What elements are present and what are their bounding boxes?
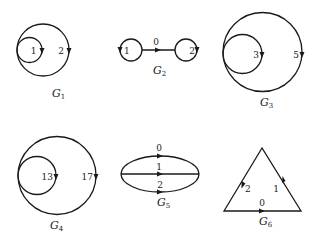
g2-right-arrow-icon [195,47,200,53]
g4-title: G4 [50,219,64,233]
g3-inner-arrow-icon [260,52,265,58]
g6-edge-label-left: 2 [245,184,251,194]
g1-outer-arrow-icon [67,48,72,54]
g4-edge-label-outer: 17 [82,172,94,182]
g6-edge-label-base: 0 [259,198,265,208]
g5-edge-label-bottom: 2 [157,180,163,190]
graph-g1: 1 2 G1 [17,24,72,101]
g5-edge-label-top: 0 [156,143,162,153]
g4-outer-arrow-icon [94,174,99,180]
g6-edge-label-right: 1 [273,184,279,194]
g5-top-arrow-icon [157,154,163,159]
g3-outer-arrow-icon [300,52,305,58]
graph-g5: 0 1 2 G5 [121,143,199,210]
g2-title: G2 [153,64,166,78]
g2-left-arrow-icon [118,47,123,53]
g3-edge-label-outer: 5 [293,50,299,60]
g2-edge-label-connector: 0 [153,37,159,47]
g1-edge-label-inner: 1 [31,46,37,56]
graph-g6: 2 1 0 G6 [224,148,301,229]
g5-edge-label-middle: 1 [156,162,162,172]
g5-middle-arrow-icon [157,172,163,177]
g4-edge-label-inner: 13 [42,172,54,182]
g2-edge-arrow-icon [155,48,161,53]
g1-inner-loop [17,38,42,63]
graph-g2: 1 0 2 G2 [118,37,200,78]
g2-edge-label-right: 2 [189,46,195,56]
g1-inner-arrow-icon [40,48,45,54]
g1-edge-label-outer: 2 [58,46,64,56]
g5-bottom-arrow-icon [157,190,163,195]
g3-title: G3 [260,96,273,110]
voltage-graphs-diagram: 1 2 G1 1 0 2 G2 3 5 G3 13 17 G4 [0,0,322,235]
graph-g3: 3 5 G3 [223,13,305,111]
g6-right-arrow-icon [282,176,286,183]
g1-title: G1 [52,87,65,101]
g2-edge-label-left: 1 [124,46,130,56]
g6-base-arrow-icon [259,209,265,214]
g5-title: G5 [157,196,170,210]
g3-edge-label-inner: 3 [253,50,259,60]
g4-inner-arrow-icon [54,174,59,180]
g6-title: G6 [259,215,273,229]
graph-g4: 13 17 G4 [18,137,99,234]
